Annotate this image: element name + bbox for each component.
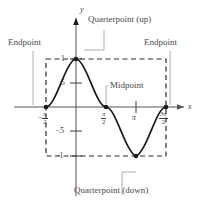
fraction-pi-over-2: π2 — [42, 111, 47, 125]
fraction-denominator: 2 — [42, 119, 47, 126]
y-axis-arrowhead — [73, 18, 79, 25]
annotation-quarterpoint-down: Quarterpoint (down) — [74, 186, 148, 195]
annotation-midpoint: Midpoint — [110, 81, 144, 90]
cosine-plot-svg — [0, 0, 203, 209]
point-endpoint-left — [44, 105, 49, 110]
point-midpoint — [104, 105, 109, 110]
fraction-pi-over-2: π2 — [101, 111, 106, 125]
cosine-curve-figure: Endpoint Endpoint Quarterpoint (up) Quar… — [0, 0, 203, 209]
point-endpoint-right — [164, 105, 169, 110]
x-axis-arrowhead — [177, 104, 184, 110]
annotation-quarterpoint-up: Quarterpoint (up) — [88, 15, 151, 24]
fraction-denominator: 2 — [101, 119, 106, 126]
x-tick-label-pi: π — [132, 114, 136, 122]
y-axis-label: y — [80, 6, 84, 14]
annotation-endpoint-left: Endpoint — [8, 38, 41, 47]
y-tick-label-1: 1 — [61, 55, 65, 63]
x-tick-label-3pi-over-2: 3π2 — [159, 111, 168, 125]
x-axis-label: x — [188, 103, 192, 111]
fraction-denominator: 2 — [159, 119, 168, 126]
y-tick-label-neg1: -1 — [57, 152, 63, 160]
point-quarterpoint-down — [134, 154, 139, 159]
point-quarterpoint-up — [74, 57, 79, 62]
x-tick-label-neg-pi-over-2: −π2 — [38, 111, 48, 125]
annotation-endpoint-right: Endpoint — [144, 38, 177, 47]
y-tick-label-0point5: .5 — [59, 79, 65, 87]
fraction-3pi-over-2: 3π2 — [159, 111, 168, 125]
y-tick-label-neg0point5: -.5 — [56, 127, 64, 135]
x-tick-label-pi-over-2: π2 — [101, 111, 106, 125]
